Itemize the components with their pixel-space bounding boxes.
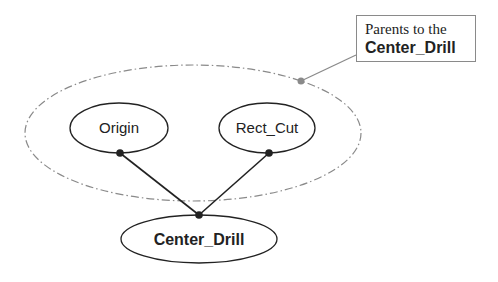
node-origin-label: Origin xyxy=(99,119,139,136)
node-center-drill-label: Center_Drill xyxy=(154,231,245,248)
edge-rect-cut-to-center-drill xyxy=(199,153,269,215)
callout-leader-line xyxy=(301,55,356,81)
node-rect-cut-label: Rect_Cut xyxy=(236,119,299,136)
origin-connector-dot xyxy=(116,149,124,157)
callout-text-line1: Parents to the xyxy=(365,20,475,38)
node-rect-cut[interactable]: Rect_Cut xyxy=(219,103,315,153)
node-center-drill[interactable]: Center_Drill xyxy=(121,215,277,263)
callout-anchor-dot xyxy=(298,78,305,85)
center-drill-connector-dot xyxy=(195,211,203,219)
rect-cut-connector-dot xyxy=(265,149,273,157)
node-origin[interactable]: Origin xyxy=(70,103,168,153)
callout-box: Parents to the Center_Drill xyxy=(356,15,476,62)
callout-text-line2: Center_Drill xyxy=(365,38,475,58)
edge-origin-to-center-drill xyxy=(120,153,199,215)
